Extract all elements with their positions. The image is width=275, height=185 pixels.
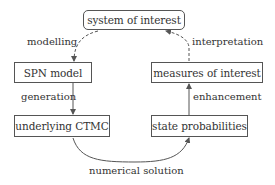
node-system-of-interest: system of interest (83, 10, 185, 30)
node-underlying-ctmc: underlying CTMC (14, 115, 110, 137)
label-modelling: modelling (27, 36, 77, 47)
label-interpretation: interpretation (192, 36, 263, 47)
diagram-canvas: system of interest SPN model measures of… (0, 0, 275, 185)
node-state-probabilities: state probabilities (151, 115, 248, 137)
modelling-edge (74, 31, 98, 61)
label-numerical-solution: numerical solution (89, 165, 184, 176)
numerical-solution-edge (73, 138, 189, 162)
interpretation-edge (166, 31, 189, 61)
label-enhancement: enhancement (193, 91, 262, 102)
node-measures-of-interest: measures of interest (151, 62, 263, 83)
label-generation: generation (21, 91, 76, 102)
node-spn-model: SPN model (14, 62, 92, 83)
